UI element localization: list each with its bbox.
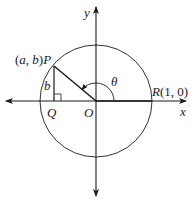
point-Q-label: Q (47, 105, 57, 120)
y-axis-label: y (82, 5, 90, 20)
segment-PQ-label: b (44, 78, 51, 93)
angle-theta-label: θ (111, 74, 118, 89)
point-P-coord-label: (a, b)P (15, 52, 51, 67)
unit-circle-diagram: y x O Q (a, b)P b θ R(1, 0) (0, 0, 193, 199)
point-P-label: P (42, 52, 51, 67)
point-R-label: R(1, 0) (151, 84, 188, 99)
angle-theta-arc (82, 83, 114, 101)
right-angle-marker (54, 94, 61, 101)
x-axis-label: x (179, 104, 186, 119)
point-O-label: O (84, 105, 94, 120)
segment-OP (54, 66, 96, 101)
